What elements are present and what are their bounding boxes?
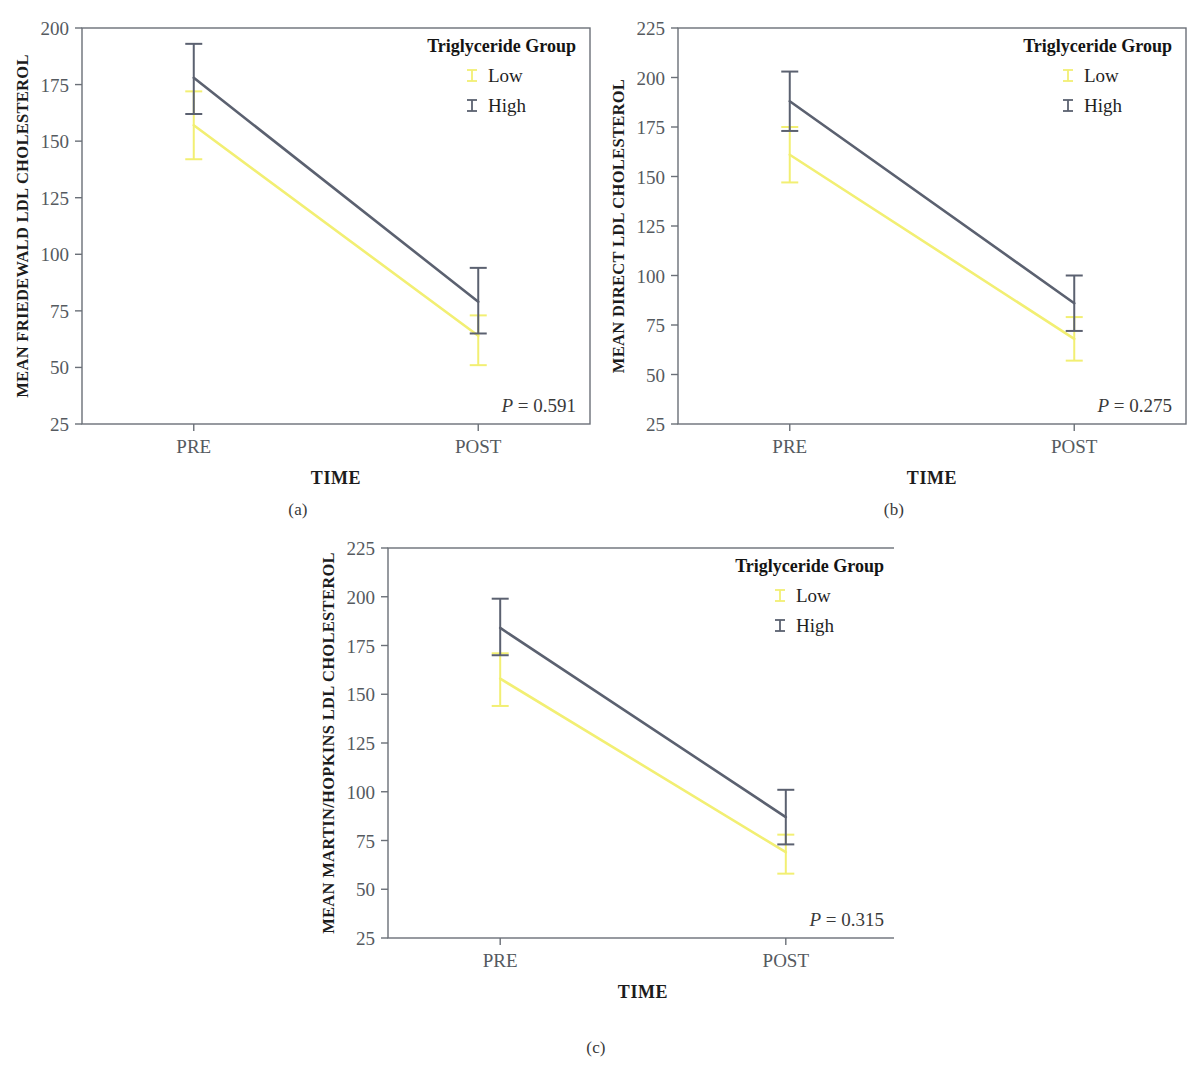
y-tick-label: 50 [646, 365, 665, 386]
chart-b: 255075100125150175200225MEAN DIRECT LDL … [596, 0, 1192, 500]
panel-a-caption: (a) [0, 500, 596, 520]
y-axis-title: MEAN FRIEDEWALD LDL CHOLESTEROL [13, 54, 32, 398]
y-tick-label: 150 [637, 167, 666, 188]
y-tick-label: 75 [646, 315, 665, 336]
panel-a: 255075100125150175200MEAN FRIEDEWALD LDL… [0, 0, 596, 500]
figure-root: 255075100125150175200MEAN FRIEDEWALD LDL… [0, 0, 1192, 1069]
y-tick-label: 225 [347, 538, 376, 559]
p-value-annotation: P = 0.315 [808, 909, 884, 930]
x-tick-label: PRE [772, 436, 807, 457]
legend-title: Triglyceride Group [427, 36, 576, 56]
legend-label-high: High [488, 95, 527, 116]
series-line-high [194, 78, 478, 302]
panel-b-caption: (b) [596, 500, 1192, 520]
legend-label-low: Low [796, 585, 831, 606]
x-tick-label: POST [455, 436, 502, 457]
plot-frame [678, 28, 1186, 424]
y-tick-label: 200 [41, 18, 70, 39]
series-line-high [500, 628, 786, 817]
series-line-low [500, 679, 786, 853]
legend-label-high: High [1084, 95, 1123, 116]
y-tick-label: 75 [50, 301, 69, 322]
y-tick-label: 175 [41, 75, 70, 96]
y-tick-label: 50 [356, 879, 375, 900]
y-tick-label: 125 [637, 216, 666, 237]
legend-label-low: Low [1084, 65, 1119, 86]
chart-a: 255075100125150175200MEAN FRIEDEWALD LDL… [0, 0, 596, 500]
legend-title: Triglyceride Group [1023, 36, 1172, 56]
x-axis-title: TIME [907, 468, 957, 488]
y-tick-label: 200 [347, 587, 376, 608]
y-axis-title: MEAN MARTIN/HOPKINS LDL CHOLESTEROL [319, 552, 338, 934]
y-tick-label: 175 [637, 117, 666, 138]
y-tick-label: 225 [637, 18, 666, 39]
y-tick-label: 200 [637, 68, 666, 89]
y-tick-label: 25 [646, 414, 665, 435]
x-axis-title: TIME [618, 982, 668, 1002]
y-tick-label: 25 [356, 928, 375, 949]
x-tick-label: PRE [176, 436, 211, 457]
y-tick-label: 150 [347, 684, 376, 705]
y-tick-label: 125 [41, 188, 70, 209]
p-value-annotation: P = 0.275 [1096, 395, 1172, 416]
y-tick-label: 100 [637, 266, 666, 287]
y-tick-label: 100 [347, 782, 376, 803]
panel-b: 255075100125150175200225MEAN DIRECT LDL … [596, 0, 1192, 500]
plot-frame [82, 28, 590, 424]
legend-label-high: High [796, 615, 835, 636]
y-tick-label: 175 [347, 636, 376, 657]
plot-frame [388, 548, 894, 938]
y-tick-label: 50 [50, 357, 69, 378]
x-tick-label: PRE [483, 950, 518, 971]
legend-label-low: Low [488, 65, 523, 86]
chart-c: 255075100125150175200225MEAN MARTIN/HOPK… [298, 520, 894, 1040]
p-value-annotation: P = 0.591 [500, 395, 576, 416]
x-tick-label: POST [1051, 436, 1098, 457]
y-axis-title: MEAN DIRECT LDL CHOLESTEROL [609, 79, 628, 373]
x-tick-label: POST [763, 950, 810, 971]
y-tick-label: 125 [347, 733, 376, 754]
series-line-high [790, 101, 1074, 303]
panel-c: 255075100125150175200225MEAN MARTIN/HOPK… [298, 520, 894, 1040]
y-tick-label: 100 [41, 244, 70, 265]
y-tick-label: 75 [356, 831, 375, 852]
x-axis-title: TIME [311, 468, 361, 488]
series-line-low [790, 155, 1074, 339]
panel-c-caption: (c) [298, 1038, 894, 1058]
series-line-low [194, 125, 478, 335]
y-tick-label: 25 [50, 414, 69, 435]
legend-title: Triglyceride Group [735, 556, 884, 576]
y-tick-label: 150 [41, 131, 70, 152]
